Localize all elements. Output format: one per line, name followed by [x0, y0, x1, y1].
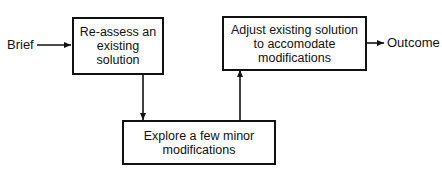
node-adjust: Adjust existing solution to accomodate m…: [222, 16, 367, 71]
input-label-brief: Brief: [7, 38, 34, 52]
node-explore: Explore a few minor modifications: [122, 120, 276, 165]
output-label-outcome: Outcome: [387, 36, 440, 50]
node-explore-text: Explore a few minor modifications: [139, 129, 259, 157]
node-adjust-text: Adjust existing solution to accomodate m…: [228, 23, 362, 65]
node-reassess-text: Re-assess an existing solution: [78, 25, 158, 67]
node-reassess: Re-assess an existing solution: [72, 17, 164, 75]
